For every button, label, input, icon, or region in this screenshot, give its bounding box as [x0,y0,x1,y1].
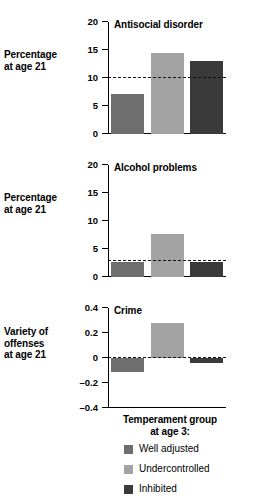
bar-inhibited [190,358,223,363]
panel-1-reference-line [108,260,226,261]
bar-well-adjusted [111,94,144,134]
panel-0-reference-line [108,77,226,78]
panel-0-ytick-mark [102,133,108,134]
panel-1-ytick-label: 20 [64,160,98,170]
panel-1-y-axis-label-line2: at age 21 [4,204,96,216]
bar-undercontrolled [151,323,184,358]
x-axis-caption-line2: at age 3: [86,426,254,438]
panel-0-ytick-mark [102,105,108,106]
panel-2-ytick-label: 0 [64,353,98,363]
bar-inhibited [190,262,223,277]
legend-swatch-icon [124,445,133,454]
panel-0-ytick-label: 0 [64,129,98,139]
panel-1-ytick-mark [102,220,108,221]
panel-1-ytick-label: 0 [64,272,98,282]
panel-1-ytick-mark [102,164,108,165]
panel-0-ytick-label: 15 [64,45,98,55]
panel-2-ytick-label: 0.2 [64,328,98,338]
legend-item-well-adjusted: Well adjusted [124,444,199,454]
panel-2-ytick-mark [102,332,108,333]
panel-2-reference-line [108,357,226,358]
panel-2-ytick-mark [102,407,108,408]
panel-0-ytick-label: 20 [64,17,98,27]
panel-1-ytick-label: 5 [64,244,98,254]
panel-2-ytick-label: 0.4 [64,303,98,313]
panel-0-ytick-label: 10 [64,73,98,83]
panel-1-ytick-mark [102,192,108,193]
panel-2-ytick-label: –0.2 [64,378,98,388]
panel-0-ytick-label: 5 [64,101,98,111]
panel-0-ytick-mark [102,49,108,50]
panel-1-ytick-label: 15 [64,188,98,198]
bar-well-adjusted [111,262,144,277]
bar-inhibited [190,61,223,134]
legend-swatch-icon [124,465,133,474]
bar-well-adjusted [111,358,144,372]
panel-2-ytick-mark [102,382,108,383]
legend-label: Inhibited [139,484,177,494]
bar-undercontrolled [151,234,184,277]
panel-1-ytick-mark [102,248,108,249]
panel-1-ytick-label: 10 [64,216,98,226]
bar-undercontrolled [151,53,184,134]
x-axis-caption: Temperament group at age 3: [86,414,254,438]
panel-0-ytick-mark [102,21,108,22]
legend-label: Undercontrolled [139,464,210,474]
temperament-outcomes-figure: Percentage at age 21 Antisocial disorder… [0,0,260,500]
x-axis-caption-line1: Temperament group [86,414,254,426]
panel-0-y-axis-label-line2: at age 21 [4,61,96,73]
panel-2-ytick-mark [102,307,108,308]
panel-1-ytick-mark [102,276,108,277]
panel-2-ytick-label: –0.4 [64,403,98,413]
panel-2-y-axis-label-line2: offenses [4,338,96,350]
legend-swatch-icon [124,485,133,494]
legend-item-undercontrolled: Undercontrolled [124,464,210,474]
legend-label: Well adjusted [139,444,199,454]
legend-item-inhibited: Inhibited [124,484,177,494]
